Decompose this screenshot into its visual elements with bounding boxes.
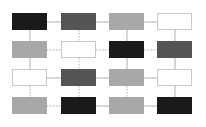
node-r3-c3-gray — [109, 69, 144, 86]
node-r2-c4-dark — [157, 41, 192, 58]
node-r2-c1-gray — [12, 41, 47, 58]
node-r4-c4-black — [157, 97, 192, 114]
node-r3-c1-white — [12, 69, 47, 86]
node-r1-c2-dark — [61, 13, 96, 30]
node-r4-c3-gray — [109, 97, 144, 114]
node-r1-c4-white — [157, 13, 192, 30]
node-r2-c3-black — [109, 41, 144, 58]
node-r1-c1-black — [12, 13, 47, 30]
node-r1-c3-gray — [109, 13, 144, 30]
grid-diagram — [0, 0, 206, 127]
node-r2-c2-white — [61, 41, 96, 58]
node-r4-c2-black — [61, 97, 96, 114]
node-r3-c4-white — [157, 69, 192, 86]
node-r3-c2-dark — [61, 69, 96, 86]
node-r4-c1-gray — [12, 97, 47, 114]
